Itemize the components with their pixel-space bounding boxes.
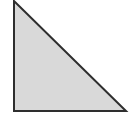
diagram-canvas <box>0 0 130 118</box>
right-triangle-shape <box>14 1 126 111</box>
